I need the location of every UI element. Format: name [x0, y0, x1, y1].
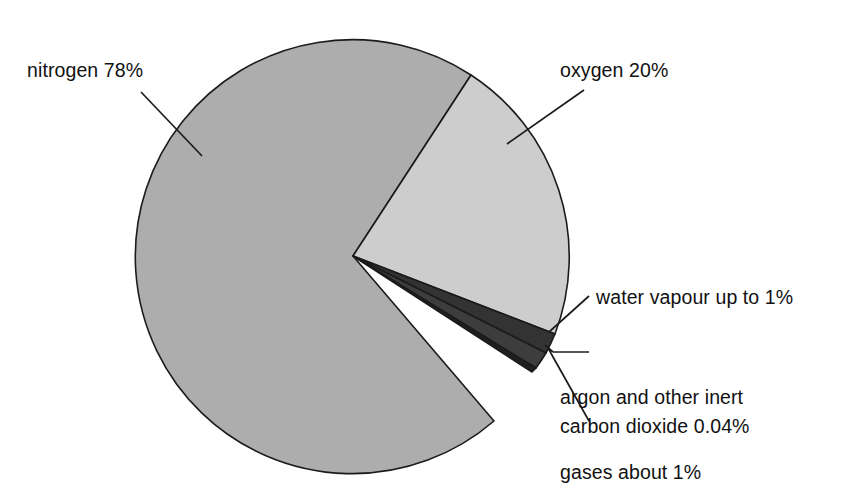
slice-label-carbon-dioxide: carbon dioxide 0.04%	[560, 414, 750, 439]
slice-label-argon-line-2: gases about 1%	[560, 460, 743, 485]
slice-label-water-vapour: water vapour up to 1%	[596, 285, 793, 310]
slice-label-oxygen: oxygen 20%	[560, 58, 668, 83]
slice-label-nitrogen: nitrogen 78%	[27, 58, 143, 83]
slice-label-argon-line-1: argon and other inert	[560, 385, 743, 410]
pie-chart-figure: nitrogen 78% oxygen 20% water vapour up …	[0, 0, 846, 499]
